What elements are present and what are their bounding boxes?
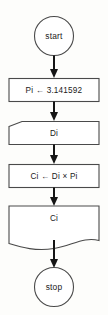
- connector-start-to-assign: [50, 56, 58, 79]
- connector-input-to-compute: [50, 145, 58, 165]
- assign-pi-label: Pi ← 3.141592: [26, 86, 83, 95]
- output-ci-label: Ci: [50, 214, 58, 223]
- arrowhead-icon: [50, 155, 58, 164]
- node-compute-ci[interactable]: Ci ← Di × Pi: [9, 165, 99, 188]
- stop-label: stop: [46, 282, 63, 292]
- flowchart-canvas: start Pi ← 3.141592 Di: [0, 0, 108, 315]
- node-assign-pi[interactable]: Pi ← 3.141592: [9, 79, 99, 102]
- node-start[interactable]: start: [35, 17, 74, 56]
- connector-assign-to-input: [50, 102, 58, 122]
- arrowhead-icon: [50, 69, 58, 78]
- input-di-label: Di: [50, 129, 58, 138]
- arrowhead-icon: [50, 197, 58, 206]
- flowchart-diagram: start Pi ← 3.141592 Di: [0, 0, 108, 315]
- node-input-di[interactable]: Di: [9, 122, 99, 145]
- arrowhead-icon: [50, 259, 58, 268]
- connector-compute-to-output: [50, 188, 58, 207]
- arrowhead-icon: [50, 112, 58, 121]
- start-label: start: [45, 31, 63, 41]
- compute-ci-label: Ci ← Di × Pi: [30, 172, 77, 181]
- node-stop[interactable]: stop: [35, 268, 74, 307]
